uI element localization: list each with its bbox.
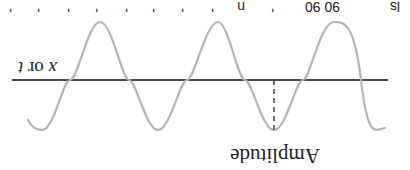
axis-var-x: x — [49, 58, 57, 79]
fragment: ' — [181, 2, 184, 12]
fragment: ' — [95, 2, 98, 12]
axis-var-t: t — [18, 58, 23, 79]
fragment: ' — [37, 2, 40, 12]
cropped-text-fragments: ' ' ' ' ' ' ' ' n ' 90 90 ls — [0, 0, 410, 12]
fragment: ' — [211, 2, 214, 12]
fragment: ' — [9, 2, 12, 12]
fragment: 90 90 — [305, 2, 340, 12]
axis-sep: or — [23, 58, 48, 79]
fragment: ' — [67, 2, 70, 12]
axis-label: x or t — [18, 57, 57, 79]
fragment: ls — [390, 2, 400, 12]
fragment: ' — [152, 2, 155, 12]
sine-wave-diagram: Amplitude x or t ' ' ' ' ' ' ' ' n ' 90 … — [0, 0, 410, 170]
fragment: ' — [271, 2, 274, 12]
fragment: ' — [125, 2, 128, 12]
sine-wave — [28, 22, 385, 130]
amplitude-label: Amplitude — [230, 143, 320, 168]
fragment: n — [237, 2, 245, 12]
diagram-graphics — [0, 0, 410, 170]
